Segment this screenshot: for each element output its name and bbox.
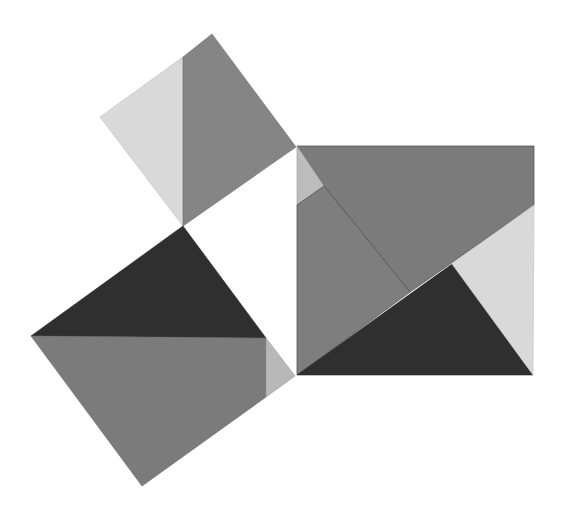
left-square-light-piece: [266, 338, 295, 397]
small-square-medium-piece: [183, 34, 296, 226]
small-square: [100, 34, 296, 226]
left-square-dark-piece: [31, 226, 266, 338]
small-square-light-piece: [100, 57, 183, 226]
left-square: [31, 226, 295, 486]
diagram-svg: [0, 0, 563, 514]
left-square-medium-piece: [31, 336, 266, 486]
right-square: [297, 146, 534, 375]
pythagorean-diagram: [0, 0, 563, 514]
